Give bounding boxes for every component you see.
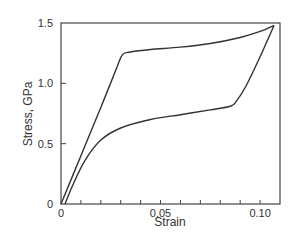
x-tick-label: 0.10 [249,207,270,219]
y-tick-label: 0 [47,198,53,210]
y-tick-label: 1.5 [38,17,53,29]
stress-strain-chart: 00.050.10 00.51.01.5 Strain Stress, GPa [0,0,292,243]
x-axis-label: Strain [154,215,185,229]
y-axis-ticks [61,83,66,143]
y-axis-label: Stress, GPa [21,81,35,146]
loading-curve [61,25,274,204]
plot-frame [61,23,280,204]
y-axis-tick-labels: 00.51.01.5 [38,17,53,210]
y-tick-label: 0.5 [38,138,53,150]
y-tick-label: 1.0 [38,77,53,89]
unloading-curve [65,25,274,204]
x-axis-ticks [81,200,260,204]
x-tick-label: 0 [58,207,64,219]
